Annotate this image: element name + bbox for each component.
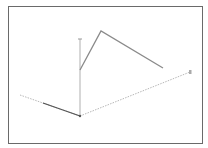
- right-axis-end-marker: [189, 70, 192, 74]
- left-axis-dark-segment: [43, 103, 80, 116]
- axes-diagram: [0, 0, 208, 148]
- origin-point: [79, 115, 81, 117]
- data-polyline: [80, 31, 163, 70]
- right-axis: [80, 72, 190, 116]
- diagram-canvas: [0, 0, 208, 148]
